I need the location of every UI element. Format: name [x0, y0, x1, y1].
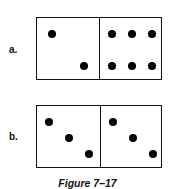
- pip: [48, 30, 56, 38]
- domino-a: [36, 17, 162, 80]
- pip: [128, 30, 136, 38]
- domino-a-right-half: [99, 18, 161, 79]
- domino-b: [36, 105, 162, 168]
- pip: [108, 30, 116, 38]
- pip: [149, 150, 157, 158]
- pip: [109, 118, 117, 126]
- pip: [148, 62, 156, 70]
- pip: [129, 134, 137, 142]
- pip: [148, 30, 156, 38]
- domino-b-left-half: [37, 106, 100, 167]
- pip: [85, 150, 93, 158]
- pip: [45, 118, 53, 126]
- label-a: a.: [9, 44, 17, 55]
- label-b: b.: [9, 131, 18, 142]
- domino-b-right-half: [100, 106, 161, 167]
- domino-a-left-half: [37, 18, 99, 79]
- figure-caption: Figure 7–17: [0, 177, 175, 189]
- pip: [108, 62, 116, 70]
- pip: [80, 62, 88, 70]
- pip: [65, 134, 73, 142]
- pip: [128, 62, 136, 70]
